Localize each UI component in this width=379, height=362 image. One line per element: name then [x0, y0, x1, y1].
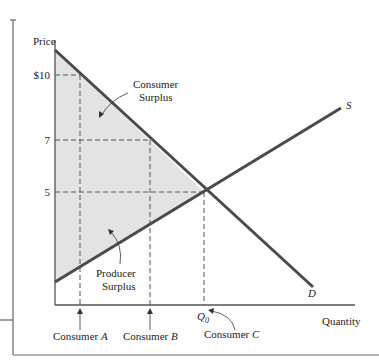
- x-axis-label: Quantity: [322, 315, 361, 327]
- price-tick-10: $10: [34, 69, 51, 81]
- y-axis-label: Price: [33, 35, 56, 47]
- supply-label: S: [346, 99, 352, 111]
- producer-surplus-label-line2: Surplus: [102, 280, 136, 292]
- consumer-surplus-label-line2: Surplus: [139, 91, 173, 103]
- consumer-b-label: Consumer B: [123, 330, 178, 342]
- consumer-c-label: Consumer C: [204, 328, 260, 340]
- consumer-b-arrowhead-icon: [147, 308, 153, 314]
- consumer-surplus-label-line1: Consumer: [133, 78, 179, 90]
- consumer-a-arrowhead-icon: [77, 308, 83, 314]
- demand-label: D: [307, 287, 316, 299]
- consumer-a-label: Consumer A: [53, 330, 108, 342]
- producer-surplus-label-line1: Producer: [96, 267, 136, 279]
- price-tick-5: 5: [45, 186, 51, 198]
- surplus-diagram: Price Quantity $10 7 5 S D Consumer Surp…: [0, 0, 379, 362]
- consumer-c-arrowhead-icon: [208, 308, 214, 314]
- price-tick-7: 7: [45, 134, 51, 146]
- q0-label: Q0: [197, 310, 209, 325]
